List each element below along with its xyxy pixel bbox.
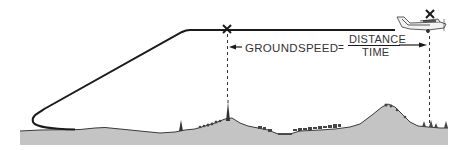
radio-tower-icon — [226, 102, 230, 121]
end-checkpoint-marker — [426, 10, 434, 18]
terrain — [20, 100, 448, 145]
tree-icon — [179, 120, 183, 131]
time-denominator: TIME — [362, 46, 389, 58]
arrow-right-icon — [419, 43, 427, 48]
ground-fill — [20, 104, 448, 145]
arrow-left-icon — [229, 45, 236, 50]
equals-sign: = — [338, 42, 344, 53]
groundspeed-diagram: GROUNDSPEED = DISTANCE TIME — [0, 0, 469, 150]
groundspeed-label: GROUNDSPEED — [245, 42, 338, 54]
distance-numerator: DISTANCE — [349, 33, 406, 45]
airplane-icon — [397, 17, 446, 33]
